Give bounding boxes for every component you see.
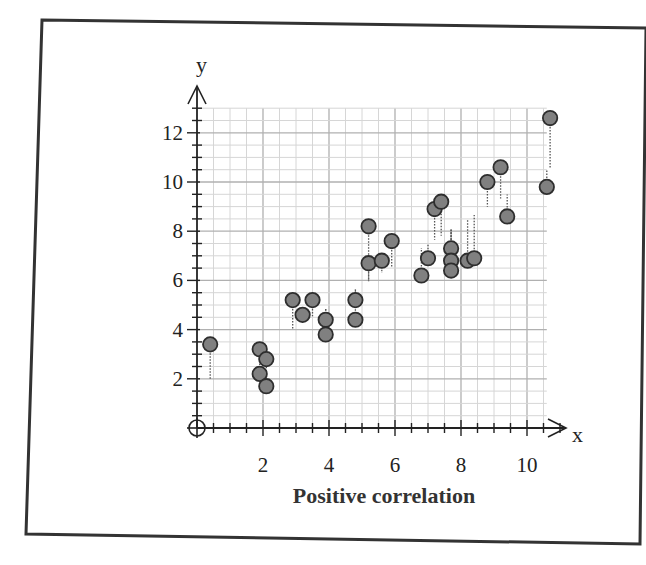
data-point [375, 254, 389, 268]
data-point [467, 251, 481, 265]
chart-caption: Positive correlation [293, 483, 475, 508]
y-axis-label: y [196, 52, 207, 77]
data-point [480, 175, 494, 189]
data-point [500, 209, 514, 223]
data-point [286, 293, 300, 307]
data-point [444, 263, 458, 277]
x-axis-label: x [572, 422, 583, 447]
data-point [540, 180, 554, 194]
data-point [493, 160, 507, 174]
y-tick-label: 8 [173, 219, 184, 243]
y-tick-label: 10 [162, 170, 183, 194]
data-point [348, 293, 362, 307]
y-tick-label: 2 [173, 367, 184, 391]
x-tick-label: 2 [258, 453, 269, 477]
data-point [295, 308, 309, 322]
x-tick-label: 6 [390, 453, 401, 477]
data-point [319, 327, 333, 341]
data-point [385, 234, 399, 248]
data-point [319, 313, 333, 327]
data-point [203, 337, 217, 351]
data-point [348, 313, 362, 327]
x-tick-label: 8 [456, 453, 467, 477]
data-point [361, 219, 375, 233]
data-point [434, 194, 448, 208]
data-point [414, 268, 428, 282]
y-tick-label: 4 [173, 318, 184, 342]
data-point [305, 293, 319, 307]
y-tick-label: 12 [162, 121, 183, 145]
y-tick-label: 6 [173, 268, 184, 292]
x-tick-label: 4 [324, 453, 335, 477]
data-point [421, 251, 435, 265]
figure-frame [26, 20, 646, 544]
scatter-figure: 24681024681012 y x Positive correlation [0, 0, 646, 565]
data-point [259, 379, 273, 393]
data-point [259, 352, 273, 366]
x-tick-label: 10 [517, 453, 538, 477]
data-point [543, 111, 557, 125]
data-point [361, 256, 375, 270]
